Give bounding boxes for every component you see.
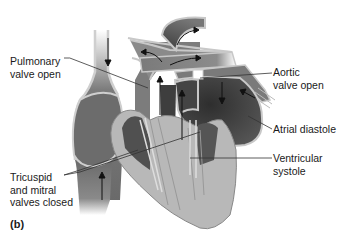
label-pulmonary-valve-open: Pulmonary valve open — [10, 55, 61, 80]
label-atrial-diastole: Atrial diastole — [273, 123, 336, 136]
label-ventricular-systole: Ventricular systole — [273, 152, 323, 177]
inferior-vena-cava — [76, 160, 112, 215]
label-aortic-valve-open: Aortic valve open — [273, 66, 324, 91]
label-av-valves-closed: Tricuspid and mitral valves closed — [10, 171, 73, 209]
panel-label: (b) — [10, 218, 24, 230]
ventricles — [111, 110, 237, 229]
